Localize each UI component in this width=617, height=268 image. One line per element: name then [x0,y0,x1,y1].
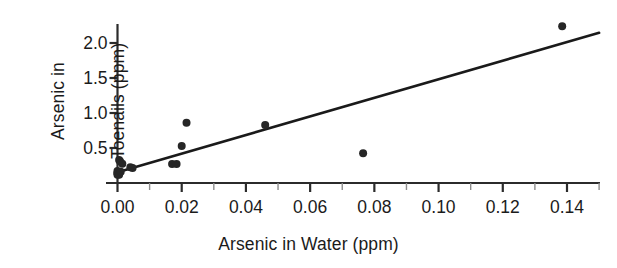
x-tick-label: 0.14 [550,197,584,218]
data-point [359,149,367,157]
x-tick-label: 0.04 [229,197,263,218]
axes-group [106,24,600,192]
regression-line [118,33,600,172]
x-tick-label: 0.10 [422,197,456,218]
data-point [183,119,191,127]
y-axis-title-line-1: Arsenic in [48,0,68,206]
x-tick-label: 0.02 [165,197,199,218]
y-axis-title: Arsenic in Toenails (ppm) [8,0,48,206]
y-axis-title-line-2: Toenails (ppm) [108,0,128,206]
x-tick-label: 0.08 [357,197,391,218]
x-tick-label: 0.12 [486,197,520,218]
data-point [173,160,181,168]
x-axis-title: Arsenic in Water (ppm) [0,234,617,255]
regression-line-path [118,33,600,172]
data-point [558,22,566,30]
arsenic-scatter-figure: 0.000.020.040.060.080.100.120.140.51.01.… [0,0,617,268]
data-point [261,121,269,129]
x-tick-label: 0.06 [293,197,327,218]
data-point [178,142,186,150]
data-points-group [114,22,567,179]
